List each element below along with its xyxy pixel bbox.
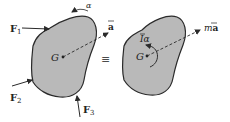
label-i-alpha: Iα — [139, 34, 150, 44]
label-g-right: G — [136, 51, 144, 62]
label-alpha: α — [86, 1, 92, 10]
kinetic-diagram: G Iα ma — [122, 16, 218, 95]
label-g-left: G — [51, 52, 59, 63]
force-arrow-f1 — [22, 28, 49, 29]
label-m-a-bar: ma — [204, 23, 219, 33]
free-body-diagram: G a α F1 F2 F3 — [10, 1, 114, 117]
label-f1: F1 — [10, 23, 22, 36]
label-f2: F2 — [10, 92, 22, 105]
force-arrow-f2 — [12, 80, 32, 86]
dynamics-diagram: G a α F1 F2 F3 ≡ G Iα — [0, 0, 230, 122]
label-a-bar: a — [108, 22, 114, 32]
rigid-body-right — [122, 16, 185, 95]
force-arrow-f3 — [77, 96, 80, 117]
equivalence-symbol: ≡ — [101, 53, 110, 66]
label-f3: F3 — [83, 104, 95, 117]
